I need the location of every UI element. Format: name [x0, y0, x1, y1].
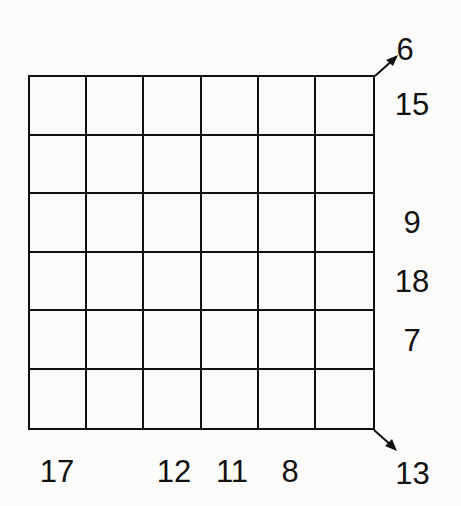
grid-cell-r2-c3[interactable] [144, 136, 201, 195]
grid-cell-r3-c6[interactable] [316, 194, 373, 253]
grid-cell-r1-c3[interactable] [144, 77, 201, 136]
grid-cell-r3-c1[interactable] [30, 194, 87, 253]
grid-cell-r6-c1[interactable] [30, 370, 87, 429]
grid-cell-r5-c2[interactable] [87, 311, 144, 370]
col-clue-3: 12 [144, 456, 204, 487]
grid-cell-r5-c6[interactable] [316, 311, 373, 370]
grid-cell-r5-c4[interactable] [202, 311, 259, 370]
arrow-down-right-icon [372, 428, 402, 456]
grid-cell-r5-c1[interactable] [30, 311, 87, 370]
grid-cell-r6-c6[interactable] [316, 370, 373, 429]
grid-cell-r3-c5[interactable] [259, 194, 316, 253]
grid-cell-r2-c2[interactable] [87, 136, 144, 195]
grid-cell-r6-c4[interactable] [202, 370, 259, 429]
grid-cell-r4-c1[interactable] [30, 253, 87, 312]
col-clue-4: 11 [202, 456, 262, 487]
grid-cell-r3-c2[interactable] [87, 194, 144, 253]
grid-cell-r4-c4[interactable] [202, 253, 259, 312]
diagonal-clue-bottom: 13 [385, 458, 440, 489]
row-clue-3: 9 [382, 207, 442, 238]
grid-cell-r5-c3[interactable] [144, 311, 201, 370]
grid-cell-r6-c3[interactable] [144, 370, 201, 429]
grid-cell-r2-c5[interactable] [259, 136, 316, 195]
grid-cell-r4-c5[interactable] [259, 253, 316, 312]
col-clue-1: 17 [27, 456, 87, 487]
grid-cell-r2-c1[interactable] [30, 136, 87, 195]
grid-cell-r1-c4[interactable] [202, 77, 259, 136]
grid-cell-r6-c2[interactable] [87, 370, 144, 429]
grid-cell-r2-c6[interactable] [316, 136, 373, 195]
row-clue-4: 18 [382, 266, 442, 297]
grid-cell-r4-c3[interactable] [144, 253, 201, 312]
grid-cell-r4-c2[interactable] [87, 253, 144, 312]
grid-cell-r4-c6[interactable] [316, 253, 373, 312]
puzzle-grid [28, 75, 375, 430]
grid-cell-r2-c4[interactable] [202, 136, 259, 195]
arrow-up-right-icon [372, 52, 402, 80]
grid-cell-r3-c3[interactable] [144, 194, 201, 253]
grid-cell-r3-c4[interactable] [202, 194, 259, 253]
grid-cell-r1-c1[interactable] [30, 77, 87, 136]
row-clue-5: 7 [382, 325, 442, 356]
grid-cell-r1-c5[interactable] [259, 77, 316, 136]
grid-cell-r6-c5[interactable] [259, 370, 316, 429]
grid-cell-r5-c5[interactable] [259, 311, 316, 370]
row-clue-1: 15 [382, 89, 442, 120]
col-clue-5: 8 [260, 456, 320, 487]
grid-cell-r1-c6[interactable] [316, 77, 373, 136]
grid-cell-r1-c2[interactable] [87, 77, 144, 136]
